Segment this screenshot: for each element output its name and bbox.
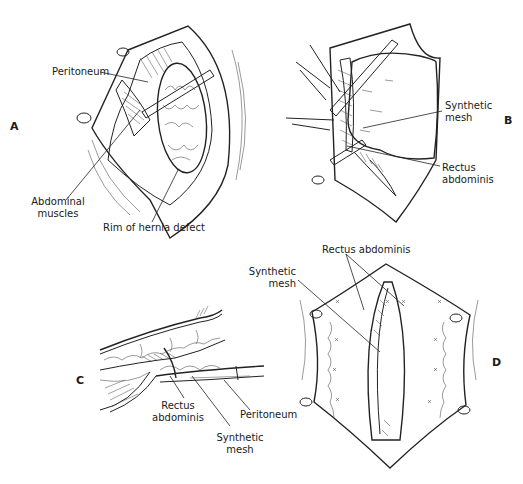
label-b-rectus-line2: abdominis — [442, 174, 494, 185]
panel-b-drawing — [286, 24, 440, 222]
label-a-abdominal-line2: muscles — [38, 208, 79, 219]
label-a-abdominal-muscles: Abdominal muscles — [30, 196, 86, 220]
panel-letter-c: C — [76, 374, 84, 387]
label-c-mesh-line2: mesh — [226, 444, 253, 455]
label-b-mesh-line1: Synthetic — [445, 100, 492, 111]
label-a-abdominal-line1: Abdominal — [31, 196, 84, 207]
label-d-synthetic-mesh: Synthetic mesh — [240, 266, 296, 290]
panel-letter-b: B — [504, 114, 512, 127]
label-d-mesh-line1: Synthetic — [249, 266, 296, 277]
label-c-peritoneum: Peritoneum — [240, 409, 297, 421]
label-c-rectus-abdominis: Rectus abdominis — [150, 400, 206, 424]
label-d-rectus-abdominis: Rectus abdominis — [322, 244, 411, 256]
label-a-rim-of-hernia-defect: Rim of hernia defect — [103, 222, 205, 234]
label-c-mesh-line1: Synthetic — [216, 432, 263, 443]
label-b-rectus-abdominis: Rectus abdominis — [442, 162, 494, 186]
panel-letter-a: A — [10, 120, 19, 133]
label-c-rectus-line1: Rectus — [161, 400, 195, 411]
panel-letter-d: D — [492, 356, 501, 369]
label-b-rectus-line1: Rectus — [442, 162, 476, 173]
panel-a-drawing — [77, 26, 246, 238]
panel-c-drawing — [100, 306, 264, 412]
label-b-synthetic-mesh: Synthetic mesh — [445, 100, 492, 124]
label-c-rectus-line2: abdominis — [152, 412, 204, 423]
label-b-mesh-line2: mesh — [445, 112, 472, 123]
label-a-peritoneum: Peritoneum — [52, 66, 109, 78]
label-d-mesh-line2: mesh — [269, 278, 296, 289]
label-c-synthetic-mesh: Synthetic mesh — [212, 432, 268, 456]
panel-d-drawing — [300, 264, 478, 468]
